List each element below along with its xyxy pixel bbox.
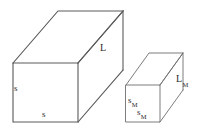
- small-prism-shape: [126, 53, 183, 122]
- prism-comparison-diagram: s s L sM sM LM: [0, 0, 210, 137]
- small-prism-width-label-subscript: M: [141, 113, 147, 120]
- small-prism-height-label: sM: [128, 96, 137, 107]
- large-prism-length-label: L: [100, 43, 106, 53]
- small-prism-width-label: sM: [137, 108, 146, 119]
- small-prism-length-label: LM: [176, 74, 188, 87]
- small-prism-height-label-base: s: [128, 95, 132, 105]
- large-prism-width-label: s: [42, 110, 46, 119]
- diagram-canvas: [0, 0, 210, 137]
- large-prism-shape: [13, 11, 123, 122]
- small-prism-length-label-subscript: M: [182, 81, 188, 88]
- small-prism-width-label-base: s: [137, 107, 141, 117]
- large-prism-height-label: s: [14, 84, 18, 93]
